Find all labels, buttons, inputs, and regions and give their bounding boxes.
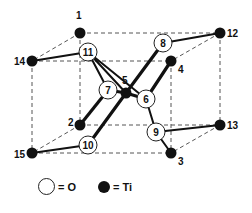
legend: = O = Ti xyxy=(38,178,154,195)
titanium-atom-3 xyxy=(166,148,177,159)
titanium-label-12: 12 xyxy=(227,28,239,39)
titanium-label-14: 14 xyxy=(14,56,26,67)
titanium-label-5: 5 xyxy=(122,75,128,86)
legend-oxygen-label: = O xyxy=(58,181,76,193)
titanium-atom-13 xyxy=(215,120,226,131)
bond xyxy=(156,125,220,132)
titanium-atom-4 xyxy=(166,56,177,67)
titanium-atom-1 xyxy=(75,28,86,39)
titanium-label-3: 3 xyxy=(178,156,184,167)
titanium-atom-5 xyxy=(121,88,132,99)
titanium-label-1: 1 xyxy=(76,10,82,21)
titanium-label-4: 4 xyxy=(178,64,184,75)
oxygen-label-10: 10 xyxy=(82,140,94,151)
oxygen-label-6: 6 xyxy=(143,94,149,105)
legend-titanium: = Ti xyxy=(98,181,132,193)
titanium-atom-14 xyxy=(27,56,38,67)
bond xyxy=(88,93,126,145)
titanium-label-2: 2 xyxy=(68,117,74,128)
titanium-label-13: 13 xyxy=(227,120,239,131)
oxygen-label-7: 7 xyxy=(105,85,111,96)
titanium-atom-2 xyxy=(75,120,86,131)
oxygen-label-8: 8 xyxy=(160,38,166,49)
titanium-atom-15 xyxy=(27,148,38,159)
titanium-atom-12 xyxy=(215,28,226,39)
oxygen-label-9: 9 xyxy=(153,127,159,138)
titanium-label-15: 15 xyxy=(14,149,26,160)
filled-circle-icon xyxy=(98,181,110,193)
oxygen-label-11: 11 xyxy=(83,47,94,58)
open-circle-icon xyxy=(38,178,55,195)
legend-titanium-label: = Ti xyxy=(113,181,132,193)
legend-oxygen: = O xyxy=(38,178,76,195)
